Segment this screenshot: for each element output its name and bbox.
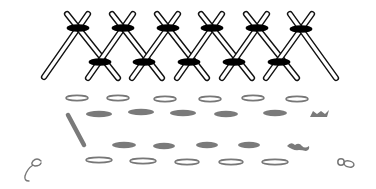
tie-bar (112, 24, 135, 32)
tie-bar (223, 58, 246, 66)
outline-dash (130, 158, 156, 163)
filled-dash (128, 109, 154, 115)
stitch-line (44, 14, 88, 77)
squiggle-mark (310, 110, 329, 117)
outline-dash (154, 96, 176, 101)
tie-bar (67, 24, 90, 32)
filled-dash (196, 142, 218, 148)
tie-bar (246, 24, 269, 32)
squiggle-mark (287, 143, 309, 151)
filled-dash (238, 142, 260, 148)
stitch-diagram (0, 0, 376, 189)
outline-dash (242, 95, 264, 100)
tie-bar (201, 24, 224, 32)
tie-bar (157, 24, 180, 32)
outline-dash (107, 95, 129, 100)
outline-dash (86, 157, 112, 162)
filled-dash (263, 110, 287, 116)
curl-icon (25, 159, 41, 181)
outline-dash (175, 159, 199, 164)
outline-dash (199, 96, 221, 101)
filled-dash (170, 110, 196, 116)
tie-bar (290, 25, 313, 33)
outline-dash (219, 159, 243, 164)
tie-bar (178, 58, 201, 66)
filled-dash (86, 111, 112, 117)
decorations (25, 159, 355, 181)
outline-dash (262, 159, 288, 164)
slanted-bar (68, 115, 84, 145)
tie-bar (268, 58, 291, 66)
tie-bars (67, 24, 313, 66)
stitch-diagonals (44, 14, 336, 78)
tie-bar (89, 58, 112, 66)
filled-dash (112, 142, 136, 148)
loop-icon (338, 159, 344, 165)
filled-dash (214, 111, 238, 117)
outline-dash (286, 96, 308, 101)
outline-dash (66, 95, 88, 100)
tie-bar (133, 58, 156, 66)
loop-icon (343, 160, 354, 168)
stitch-line (290, 14, 336, 78)
filled-dash (153, 143, 175, 149)
dash-rows (66, 95, 329, 164)
